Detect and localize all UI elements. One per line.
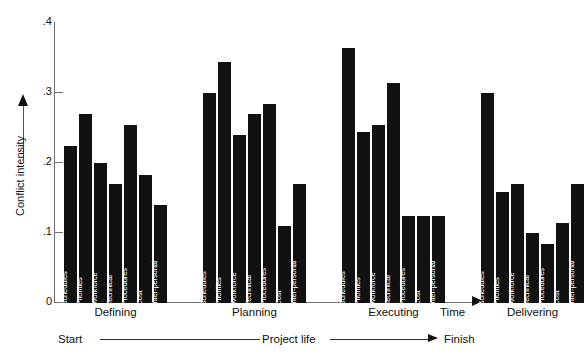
bar-planning-workforce[interactable]: Workforce	[233, 135, 246, 303]
timeline-arrow-icon	[428, 334, 438, 342]
bar-group-executing: SchedulesPrioritiesWorkforceTechnicalPro…	[342, 22, 445, 303]
group-name-executing: Executing	[342, 306, 445, 318]
bar-planning-procedures[interactable]: Procedures	[263, 104, 276, 304]
bar-delivering-technical[interactable]: Technical	[526, 233, 539, 303]
y-tick-label-0: .4	[30, 16, 52, 27]
timeline-start-label: Start	[58, 332, 82, 346]
bar-label-text: Schedules	[197, 231, 210, 308]
group-name-delivering: Delivering	[481, 306, 584, 318]
bar-executing-priorities[interactable]: Priorities	[357, 132, 370, 304]
bar-executing-cost[interactable]: Cost	[417, 216, 430, 304]
bar-delivering-inter-personal[interactable]: Inter-personal	[571, 184, 584, 303]
y-axis-tick-labels: .4.3.2.10	[26, 0, 52, 356]
bar-executing-workforce[interactable]: Workforce	[372, 125, 385, 304]
bar-group-delivering: SchedulesPrioritiesWorkforceTechnicalPro…	[481, 22, 584, 303]
bar-planning-cost[interactable]: Cost	[278, 226, 291, 303]
bar-label-text: Schedules	[336, 231, 349, 308]
bar-group-planning: SchedulesPrioritiesWorkforceTechnicalPro…	[203, 22, 306, 303]
bar-planning-priorities[interactable]: Priorities	[218, 62, 231, 304]
up-arrow-icon	[18, 94, 28, 106]
timeline-line-left	[100, 339, 260, 340]
bar-label-text: Schedules	[475, 231, 488, 308]
project-life-timeline: Start Project life Finish	[0, 332, 494, 354]
y-tick-label-4: 0	[30, 296, 52, 307]
timeline-line-right	[330, 339, 428, 340]
bar-delivering-priorities[interactable]: Priorities	[496, 192, 509, 303]
y-tick-label-1: .3	[30, 86, 52, 97]
plot-area: SchedulesPrioritiesWorkforceTechnicalPro…	[54, 22, 479, 303]
timeline-finish-label: Finish	[444, 332, 475, 346]
timeline-middle-label: Project life	[262, 332, 316, 346]
bar-delivering-schedules[interactable]: Schedules	[481, 93, 494, 303]
bar-executing-procedures[interactable]: Procedures	[402, 216, 415, 304]
bar-planning-technical[interactable]: Technical	[248, 114, 261, 303]
bar-group-defining: SchedulesPrioritiesWorkforceTechnicalPro…	[64, 22, 167, 303]
bar-defining-procedures[interactable]: Procedures	[124, 125, 137, 304]
y-tick-label-2: .2	[30, 156, 52, 167]
bar-planning-schedules[interactable]: Schedules	[203, 93, 216, 303]
bar-executing-schedules[interactable]: Schedules	[342, 48, 355, 304]
bar-defining-priorities[interactable]: Priorities	[79, 114, 92, 303]
group-name-defining: Defining	[64, 306, 167, 318]
bar-delivering-procedures[interactable]: Procedures	[541, 244, 554, 304]
bar-defining-cost[interactable]: Cost	[139, 175, 152, 303]
bar-defining-inter-personal[interactable]: Inter-personal	[154, 205, 167, 303]
bar-executing-inter-personal[interactable]: Inter-personal	[432, 216, 445, 304]
bar-delivering-cost[interactable]: Cost	[556, 223, 569, 304]
y-tick-label-3: .1	[30, 226, 52, 237]
group-name-planning: Planning	[203, 306, 306, 318]
bar-delivering-workforce[interactable]: Workforce	[511, 184, 524, 303]
bar-executing-technical[interactable]: Technical	[387, 83, 400, 304]
bar-label-text: Schedules	[58, 231, 71, 308]
bar-defining-workforce[interactable]: Workforce	[94, 163, 107, 303]
bar-defining-schedules[interactable]: Schedules	[64, 146, 77, 304]
bar-planning-inter-personal[interactable]: Inter-personal	[293, 184, 306, 303]
bar-defining-technical[interactable]: Technical	[109, 184, 122, 303]
y-axis-title: Conflict intensity	[14, 122, 26, 230]
